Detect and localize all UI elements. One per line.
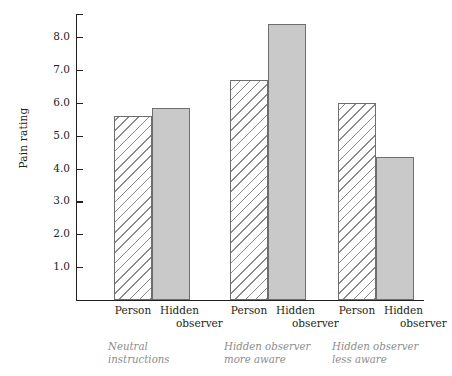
x-category-label: Person [102, 304, 164, 317]
y-tick-mark [76, 169, 83, 170]
y-tick-label: 7.0 [36, 63, 70, 75]
y-tick-mark [76, 267, 83, 268]
y-axis-label: Pain rating [17, 93, 29, 183]
y-tick-mark [76, 234, 83, 235]
y-axis-top-cap [76, 14, 83, 15]
y-tick-mark [76, 37, 83, 38]
x-group-note: Hidden observerless aware [332, 341, 452, 366]
x-group-3: PersonHiddenobserverHidden observerless … [326, 304, 452, 336]
y-tick-label: 1.0 [36, 260, 70, 272]
bar-group3-person [338, 103, 376, 300]
bar-group2-person [230, 80, 268, 300]
y-tick-label: 3.0 [36, 194, 70, 206]
x-category-label: Hiddenobserver [384, 304, 446, 329]
x-category-pair: PersonHiddenobserver [326, 304, 452, 336]
x-category-label: Person [326, 304, 388, 317]
bar-group3-hidden-observer [376, 157, 414, 300]
y-tick-mark [76, 136, 83, 137]
x-category-label: Person [218, 304, 280, 317]
y-axis-spine [76, 14, 77, 300]
y-tick-label: 6.0 [36, 96, 70, 108]
x-axis-labels: PersonHiddenobserverNeutralinstructionsP… [76, 304, 447, 376]
y-tick-mark [76, 103, 83, 104]
bar-group2-hidden-observer [268, 24, 306, 300]
y-tick-label: 4.0 [36, 162, 70, 174]
x-axis-baseline [76, 300, 424, 301]
bar-group1-person [114, 116, 152, 300]
y-tick-mark [76, 201, 83, 202]
bar-group1-hidden-observer [152, 108, 190, 300]
x-category-label: Hiddenobserver [160, 304, 222, 329]
y-tick-label: 8.0 [36, 30, 70, 42]
y-tick-mark [76, 70, 83, 71]
plot-area: 1.02.03.04.05.06.07.08.0 [76, 14, 424, 300]
y-tick-label: 5.0 [36, 129, 70, 141]
y-tick-label: 2.0 [36, 227, 70, 239]
